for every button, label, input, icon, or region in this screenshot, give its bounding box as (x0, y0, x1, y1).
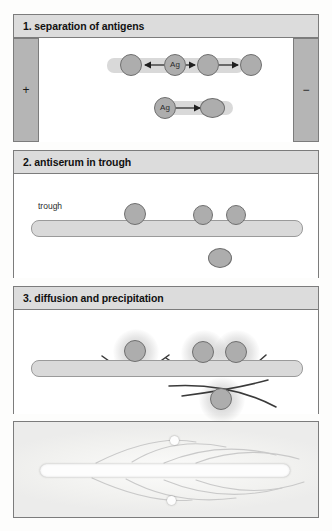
antigen-spot-label: Ag (165, 55, 185, 75)
panel-2-body: trough (14, 174, 318, 278)
antigen-spot (192, 341, 214, 363)
antigen-spot (210, 388, 232, 410)
photograph-trough (40, 464, 290, 477)
panel-1-header: 1. separation of antigens (14, 15, 318, 38)
panel-1-body: + − (14, 38, 318, 142)
panel-1-title: 1. separation of antigens (23, 20, 144, 32)
antigen-spot (240, 54, 262, 76)
antigen-spot (225, 341, 247, 363)
panel-antiserum-in-trough: 2. antiserum in trough trough (13, 150, 319, 278)
antigen-spot (124, 203, 146, 225)
panel-3-title: 3. diffusion and precipitation (23, 292, 164, 304)
electrode-positive-label: + (22, 84, 29, 96)
antiserum-trough (31, 360, 303, 377)
panel-2-header: 2. antiserum in trough (14, 151, 318, 174)
panel-2-title: 2. antiserum in trough (23, 156, 131, 168)
electrode-positive: + (13, 38, 39, 142)
antigen-spot (124, 340, 146, 362)
antigen-spot (197, 54, 219, 76)
antigen-spot (120, 54, 142, 76)
photograph-image (14, 422, 318, 517)
photograph-panel (13, 421, 319, 518)
photograph-well (167, 496, 176, 505)
antigen-spot-ag-2: Ag (154, 97, 176, 119)
antigen-spot-ag-1: Ag (164, 54, 186, 76)
antigen-spot-label: Ag (155, 98, 175, 118)
antigen-spot (226, 205, 246, 225)
antiserum-trough (31, 220, 303, 237)
electrode-negative-label: − (302, 84, 309, 96)
electrode-negative: − (293, 38, 319, 142)
panel-separation-of-antigens: 1. separation of antigens + − (13, 14, 319, 142)
antigen-spot (208, 248, 232, 268)
antigen-spot (193, 205, 213, 225)
panel-3-header: 3. diffusion and precipitation (14, 287, 318, 310)
photograph-well (170, 436, 179, 445)
trough-label: trough (38, 201, 62, 211)
panel-1-arrows (14, 38, 318, 142)
panel-3-body (14, 310, 318, 414)
immunoelectrophoresis-figure: 1. separation of antigens + − (0, 0, 332, 531)
antigen-spot (200, 98, 225, 118)
panel-diffusion-and-precipitation: 3. diffusion and precipitation (13, 286, 319, 414)
